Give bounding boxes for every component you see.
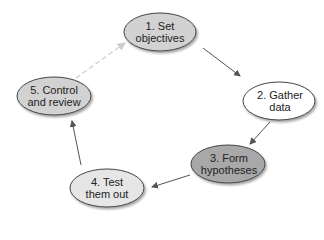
node-5-line2: and review (27, 96, 80, 108)
node-2-label: 2. Gather data (257, 89, 303, 113)
arrow-4-to-5 (72, 121, 81, 165)
arrow-2-to-3 (250, 122, 270, 144)
node-1-line1: 1. Set (136, 20, 185, 32)
node-3-label: 3. Form hypotheses (201, 152, 257, 176)
node-5-line1: 5. Control (27, 84, 80, 96)
node-5-label: 5. Control and review (27, 84, 80, 108)
node-3-line1: 3. Form (201, 152, 257, 164)
node-3-line2: hypotheses (201, 164, 257, 176)
arrow-3-to-4 (152, 175, 190, 187)
node-1-label: 1. Set objectives (136, 20, 185, 44)
node-4-line1: 4. Test (86, 176, 129, 188)
node-1-line2: objectives (136, 32, 185, 44)
node-2-line2: data (257, 101, 303, 113)
arrow-1-to-2 (203, 48, 240, 76)
node-4-label: 4. Test them out (86, 176, 129, 200)
node-2-line1: 2. Gather (257, 89, 303, 101)
arrow-5-to-1-dashed (76, 43, 125, 78)
node-4-line2: them out (86, 188, 129, 200)
